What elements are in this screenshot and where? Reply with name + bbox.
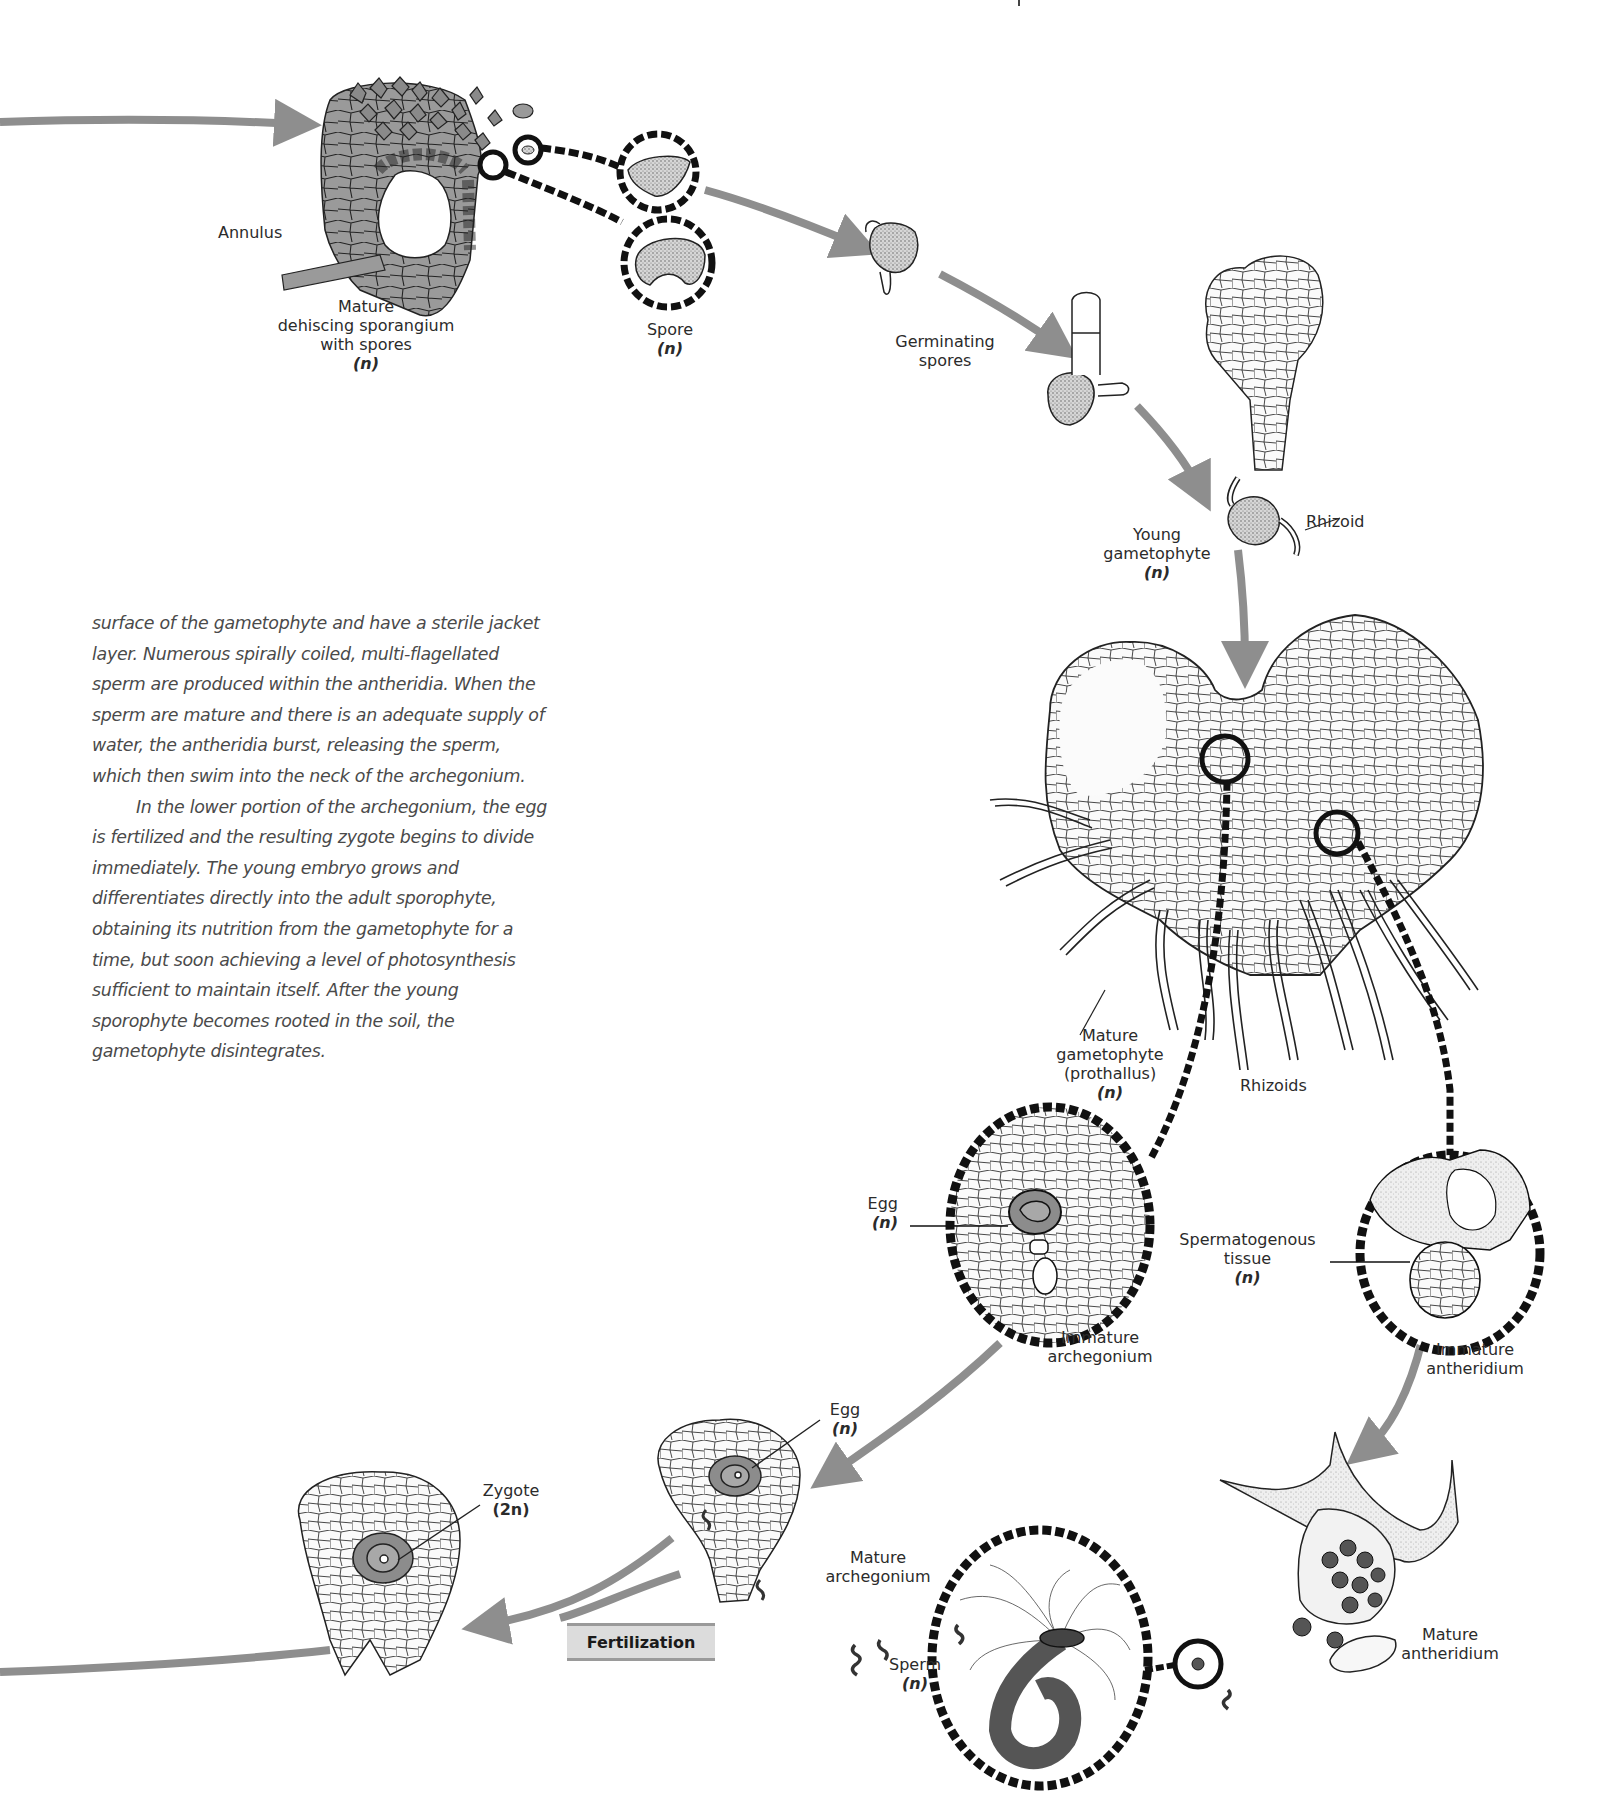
- germinating-spores-drawing: [866, 221, 1129, 425]
- label-egg-immature: Egg (n): [862, 1194, 898, 1232]
- arrow-to-young-gametophyte: [1137, 406, 1200, 490]
- label-annulus: Annulus: [218, 223, 282, 242]
- label-sperm: Sperm (n): [880, 1655, 950, 1693]
- arrow-to-mature-gametophyte: [1238, 550, 1245, 665]
- immature-archegonium-callout: [910, 1107, 1150, 1343]
- label-zygote: Zygote (2n): [476, 1481, 546, 1519]
- arrow-into-sporangium: [0, 120, 298, 124]
- fertilization-box: Fertilization: [567, 1623, 715, 1661]
- label-mature-antheridium: Mature antheridium: [1390, 1625, 1510, 1663]
- immature-antheridium-callout: [1330, 1150, 1540, 1351]
- mature-archegonium-drawing: [658, 1419, 820, 1602]
- label-rhizoids: Rhizoids: [1240, 1076, 1307, 1095]
- arrow-out-of-zygote: [0, 1650, 330, 1672]
- fern-life-cycle-page: Annulus Mature dehiscing sporangium with…: [0, 0, 1601, 1814]
- body-text-column: surface of the gametophyte and have a st…: [92, 608, 552, 1067]
- label-rhizoid: Rhizoid: [1306, 512, 1365, 531]
- label-young-gametophyte: Young gametophyte (n): [1092, 525, 1222, 582]
- sporangium-drawing: [282, 77, 541, 316]
- arrow-to-mature-antheridium: [1365, 1340, 1422, 1450]
- label-mature-gametophyte: Mature gametophyte (prothallus) (n): [1045, 1026, 1175, 1102]
- label-egg-mature: Egg (n): [820, 1400, 870, 1438]
- arrow-spore-to-germinating: [705, 190, 858, 245]
- label-mature-sporangium: Mature dehiscing sporangium with spores …: [256, 297, 476, 373]
- label-germinating-spores: Germinating spores: [880, 332, 1010, 370]
- zygote-drawing: [298, 1472, 480, 1675]
- fertilization-label: Fertilization: [587, 1633, 696, 1652]
- label-mature-archegonium: Mature archegonium: [818, 1548, 938, 1586]
- young-gametophyte-drawing: [1206, 256, 1340, 555]
- label-immature-antheridium: Immature antheridium: [1415, 1340, 1535, 1378]
- paragraph-antheridia: surface of the gametophyte and have a st…: [92, 608, 552, 792]
- label-spermatogenous-tissue: Spermatogenous tissue (n): [1170, 1230, 1325, 1287]
- paragraph-fertilization: In the lower portion of the archegonium,…: [92, 792, 552, 1067]
- label-spore: Spore (n): [630, 320, 710, 358]
- label-immature-archegonium: Immature archegonium: [1040, 1328, 1160, 1366]
